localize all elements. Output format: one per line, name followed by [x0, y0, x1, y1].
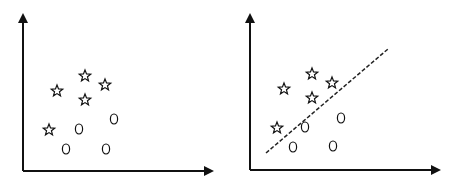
star-marker-icon	[306, 92, 317, 103]
star-marker-icon	[278, 83, 289, 94]
circle-marker-icon	[289, 142, 296, 152]
circle-marker-icon	[337, 113, 344, 123]
star-marker-icon	[326, 77, 337, 88]
decision-boundary-line	[266, 49, 388, 153]
left-scatter-panel	[23, 15, 212, 171]
star-marker-icon	[79, 94, 90, 105]
circle-marker-icon	[110, 114, 117, 124]
circle-marker-icon	[301, 122, 308, 132]
star-marker-icon	[51, 85, 62, 96]
circle-marker-icon	[102, 144, 109, 154]
points-group	[43, 70, 117, 154]
star-marker-icon	[306, 68, 317, 79]
circle-marker-icon	[62, 144, 69, 154]
scatter-diagram	[0, 0, 453, 182]
star-marker-icon	[99, 79, 110, 90]
right-scatter-panel	[250, 15, 439, 170]
circle-marker-icon	[329, 141, 336, 151]
star-marker-icon	[43, 124, 54, 135]
circle-marker-icon	[75, 124, 82, 134]
star-marker-icon	[271, 122, 282, 133]
star-marker-icon	[79, 70, 90, 81]
